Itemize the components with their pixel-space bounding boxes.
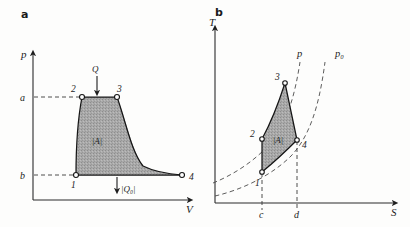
panel-a-label-1: 1 [71, 180, 76, 190]
panel-b-label-2: 2 [250, 129, 255, 139]
panel-b-point-4 [295, 138, 300, 143]
panel-a-tick-b: b [20, 170, 25, 181]
panel-b-tick-c: c [259, 209, 264, 220]
panel-b-label-3: 3 [274, 72, 280, 82]
panel-a-point-2 [80, 95, 85, 100]
panel-a-label-2: 2 [71, 84, 76, 94]
panel-a-area-label: |A| [92, 136, 102, 146]
panel-a-heat-in-label: Q [92, 64, 99, 74]
thermodynamic-cycle-figure: a [0, 0, 410, 227]
panel-a-x-axis-label: V [186, 203, 194, 215]
panel-a-heat-out-label: |Q₀| [121, 184, 136, 194]
panel-b-label-4: 4 [302, 140, 307, 150]
panel-a-point-1 [74, 173, 79, 178]
panel-a-point-4 [180, 173, 185, 178]
panel-a-tick-a: a [20, 92, 25, 103]
panel-b-area-label: |A| [273, 135, 283, 145]
panel-b-point-1 [260, 170, 265, 175]
panel-b-isobar-p0-label: p₀ [334, 48, 344, 59]
panel-a-svg: p V a b 1 2 3 4 |A| Q |Q₀| [0, 0, 205, 227]
panel-b-svg: T S c d 1 2 3 4 |A| p p₀ [205, 0, 410, 227]
panel-b-point-2 [260, 137, 265, 142]
panel-a-y-axis-label: p [20, 48, 27, 60]
panel-a-label-3: 3 [116, 84, 122, 94]
panel-a-pv-diagram: a [0, 0, 205, 227]
panel-b-x-axis-label: S [391, 206, 397, 218]
panel-b-label-1: 1 [255, 178, 260, 188]
panel-b-isobar-p-label: p [296, 48, 302, 59]
panel-b-y-axis-label: T [209, 16, 216, 28]
panel-a-point-3 [115, 95, 120, 100]
panel-b-point-3 [283, 81, 288, 86]
panel-b-tick-d: d [294, 209, 300, 220]
panel-a-label-4: 4 [189, 172, 194, 182]
panel-b-ts-diagram: b T S c [205, 0, 410, 227]
